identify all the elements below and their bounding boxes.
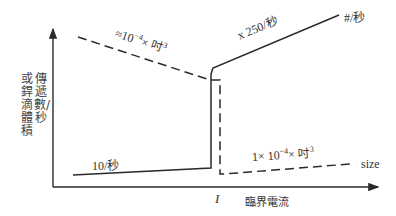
small-size-label-base: 1× 10 [252, 148, 281, 164]
small-size-label-unit-exp: 3 [309, 145, 314, 154]
low-rate-label: 10/秒 [92, 160, 119, 172]
y-axis-label-right: 傳遞數/秒 [34, 73, 47, 125]
size-end-label: size [361, 158, 380, 170]
transition-current-diagram [0, 0, 396, 216]
y-axis-label-left: 或銲滴體積 [20, 73, 33, 138]
x-axis-label: 臨界電流 [245, 197, 289, 208]
rate-end-label: #/秒 [344, 12, 365, 24]
critical-current-tick: I [215, 192, 219, 205]
small-size-label-unit: × 吋 [288, 146, 311, 161]
